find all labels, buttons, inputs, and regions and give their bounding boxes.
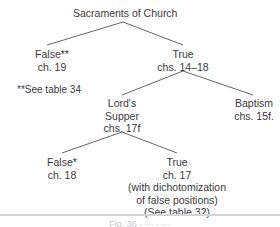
edge-true-baptism <box>183 71 253 95</box>
false-sacraments-node: False** ch. 19 <box>22 48 82 73</box>
edge-root-false <box>47 22 123 45</box>
footnote: **See table 34 <box>17 84 81 95</box>
baptism-label: Baptism <box>228 97 280 110</box>
separator-rule <box>0 214 280 216</box>
figure-caption: Fig. 36 · ··· · ··· <box>0 219 280 227</box>
ls-true-note-1: (with dichotomization <box>127 181 227 194</box>
lords-supper-chapters: chs. 17f <box>97 122 147 135</box>
ls-true-note-3: (See table 32) <box>127 206 227 219</box>
edge-true-lordssupper <box>122 71 183 95</box>
lords-supper-true-node: True ch. 17 (with dichotomization of fal… <box>127 156 227 219</box>
lords-supper-label-1: Lord's <box>97 97 147 110</box>
true-chapters: chs. 14–18 <box>153 61 213 74</box>
lords-supper-label-2: Supper <box>97 110 147 123</box>
false-chapter: ch. 19 <box>22 61 82 74</box>
true-label: True <box>153 48 213 61</box>
root-node: Sacraments of Church <box>73 7 173 20</box>
ls-true-chapter: ch. 17 <box>127 169 227 182</box>
ls-false-chapter: ch. 18 <box>40 169 84 182</box>
edge-ls-true <box>122 132 177 153</box>
ls-false-label: False* <box>40 156 84 169</box>
baptism-chapters: chs. 15f. <box>228 110 280 123</box>
lords-supper-false-node: False* ch. 18 <box>40 156 84 181</box>
ls-true-label: True <box>127 156 227 169</box>
false-label: False** <box>22 48 82 61</box>
lords-supper-node: Lord's Supper chs. 17f <box>97 97 147 135</box>
ls-true-note-2: of false positions) <box>127 194 227 207</box>
true-sacraments-node: True chs. 14–18 <box>153 48 213 73</box>
edge-root-true <box>123 22 183 45</box>
edge-ls-false <box>62 132 122 153</box>
root-label: Sacraments of Church <box>73 7 173 20</box>
baptism-node: Baptism chs. 15f. <box>228 97 280 122</box>
